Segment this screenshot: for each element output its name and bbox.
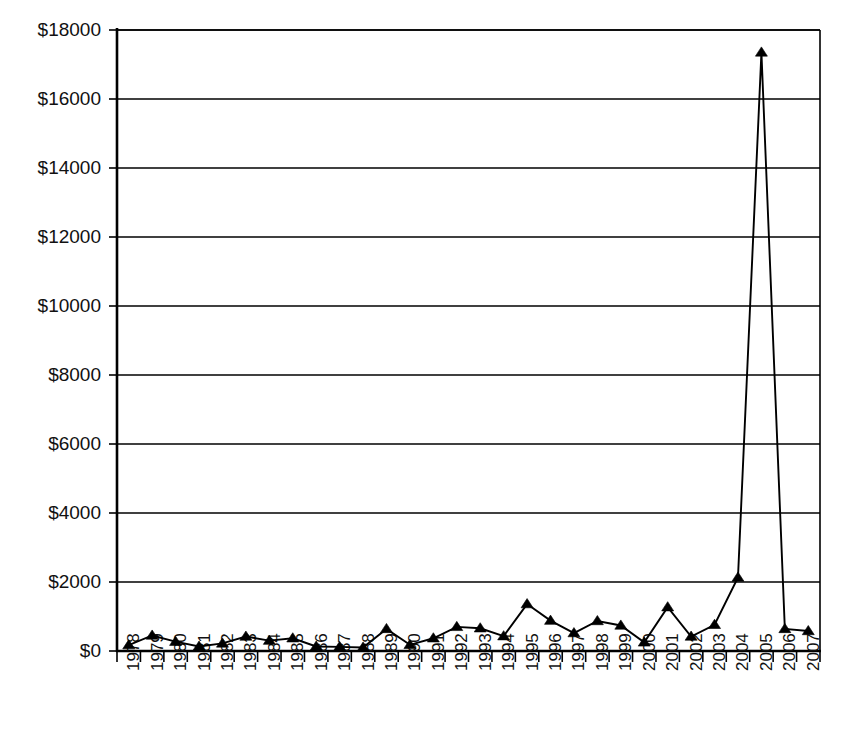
- x-tick-label: 1995: [523, 633, 542, 671]
- x-tick-label: 2000: [640, 633, 659, 671]
- x-tick-label: 1990: [405, 633, 424, 671]
- y-tick-label: $6000: [48, 433, 101, 454]
- y-tick-label: $18000: [38, 19, 101, 40]
- y-tick-label: $2000: [48, 571, 101, 592]
- x-tick-label: 1998: [593, 633, 612, 671]
- x-tick-label: 1997: [569, 633, 588, 671]
- x-tick-label: 2001: [663, 633, 682, 671]
- x-tick-label: 2005: [757, 633, 776, 671]
- y-tick-label: $16000: [38, 88, 101, 109]
- x-tick-label: 1982: [218, 633, 237, 671]
- x-tick-label: 1981: [195, 633, 214, 671]
- x-tick-label: 2006: [780, 633, 799, 671]
- x-tick-label: 1978: [124, 633, 143, 671]
- x-tick-label: 1986: [312, 633, 331, 671]
- y-tick-label: $12000: [38, 226, 101, 247]
- y-tick-label: $4000: [48, 502, 101, 523]
- chart-container: $0$2000$4000$6000$8000$10000$12000$14000…: [0, 0, 843, 741]
- x-tick-label: 1999: [616, 633, 635, 671]
- line-chart: $0$2000$4000$6000$8000$10000$12000$14000…: [0, 0, 843, 741]
- x-tick-label: 2003: [710, 633, 729, 671]
- x-tick-label: 1989: [382, 633, 401, 671]
- x-tick-label: 1992: [452, 633, 471, 671]
- x-tick-label: 1987: [335, 633, 354, 671]
- y-tick-label: $8000: [48, 364, 101, 385]
- chart-background: [0, 0, 843, 741]
- x-tick-label: 2007: [804, 633, 823, 671]
- x-tick-label: 2004: [733, 633, 752, 671]
- y-tick-label: $14000: [38, 157, 101, 178]
- y-tick-label: $10000: [38, 295, 101, 316]
- x-tick-label: 1996: [546, 633, 565, 671]
- y-tick-label: $0: [80, 640, 101, 661]
- x-tick-label: 1993: [476, 633, 495, 671]
